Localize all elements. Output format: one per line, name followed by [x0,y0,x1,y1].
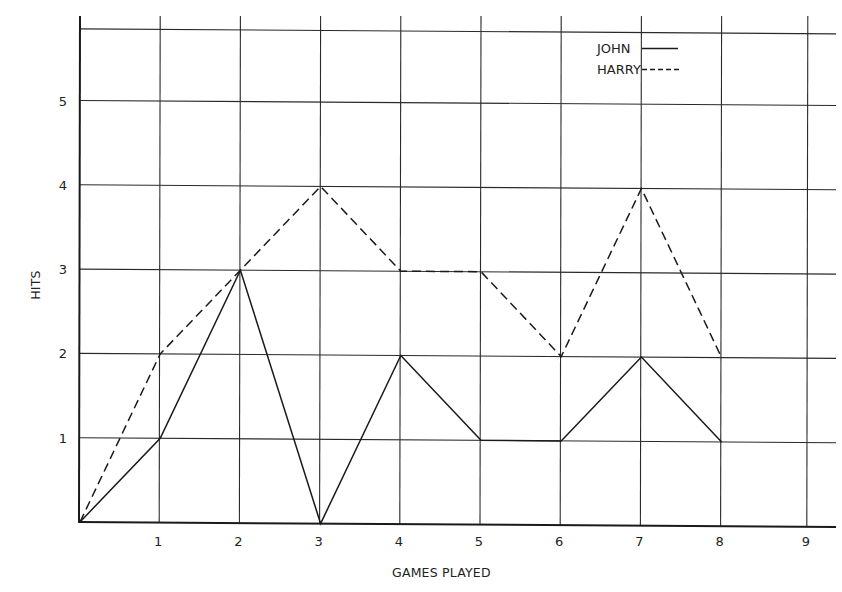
gridline-x-5 [480,16,481,525]
gridline-x-9 [807,16,808,527]
legend: JOHN HARRY [596,41,680,77]
gridline-x-6 [560,16,561,525]
gridline-y-5.85 [80,29,836,34]
gridline-y-4 [80,185,836,190]
y-tick-3: 3 [59,262,67,277]
legend-label-harry: HARRY [597,62,641,77]
x-tick-6: 6 [555,534,563,549]
gridline-x-3 [320,16,321,524]
x-axis [79,522,836,527]
y-axis-label: HITS [28,270,43,299]
x-tick-4: 4 [395,534,403,549]
gridline-x-7 [640,16,641,526]
horizontal-gridlines [80,29,836,443]
x-tick-labels: 123456789 [154,534,810,549]
gridline-y-5 [80,101,836,106]
x-tick-7: 7 [635,534,643,549]
x-axis-label: GAMES PLAYED [392,565,491,580]
legend-label-john: JOHN [596,41,631,56]
gridline-y-2 [80,353,836,358]
x-tick-8: 8 [715,534,723,549]
series-john [80,270,722,523]
gridline-x-8 [721,16,722,526]
gridline-y-1 [80,438,836,443]
y-tick-4: 4 [59,178,67,193]
x-tick-9: 9 [802,534,810,549]
y-tick-1: 1 [59,431,67,446]
x-tick-3: 3 [314,534,322,549]
y-tick-5: 5 [59,94,67,109]
x-tick-5: 5 [475,534,483,549]
x-tick-2: 2 [234,534,242,549]
line-chart: 123456789 12345 GAMES PLAYED HITS JOHN H… [0,0,842,592]
y-tick-2: 2 [59,346,67,361]
y-axis [79,16,80,523]
y-tick-labels: 12345 [59,94,67,446]
x-tick-1: 1 [154,534,162,549]
